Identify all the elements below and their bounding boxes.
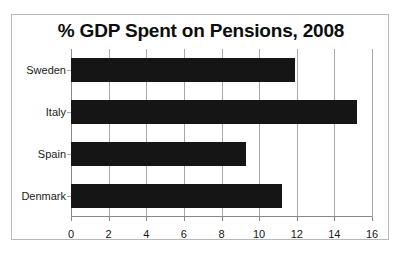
bar-row: Spain: [71, 142, 372, 166]
x-axis-tick: [71, 217, 72, 221]
y-axis-tick: [67, 112, 71, 113]
x-axis-tick: [259, 217, 260, 221]
bar-row: Sweden: [71, 58, 372, 82]
bar: [71, 184, 282, 208]
x-axis-tick: [109, 217, 110, 221]
x-axis-tick-label: 8: [209, 228, 235, 240]
bar: [71, 142, 246, 166]
x-axis-tick: [184, 217, 185, 221]
bar: [71, 100, 357, 124]
bar-row: Italy: [71, 100, 372, 124]
x-axis-tick-label: 14: [321, 228, 347, 240]
plot-area: SwedenItalySpainDenmark 0246810121416: [71, 49, 372, 217]
x-axis-tick-label: 12: [284, 228, 310, 240]
x-axis-tick: [146, 217, 147, 221]
category-label: Sweden: [26, 64, 66, 76]
gridline: [372, 49, 373, 217]
y-axis-tick: [67, 70, 71, 71]
bar: [71, 58, 295, 82]
category-label: Spain: [38, 148, 66, 160]
chart-frame: % GDP Spent on Pensions, 2008 SwedenItal…: [11, 14, 389, 240]
x-axis-tick-label: 0: [58, 228, 84, 240]
x-axis-tick-label: 4: [133, 228, 159, 240]
chart-title: % GDP Spent on Pensions, 2008: [12, 20, 390, 42]
x-axis-tick: [372, 217, 373, 221]
x-axis-tick: [297, 217, 298, 221]
category-label: Denmark: [21, 190, 66, 202]
y-axis-tick: [67, 154, 71, 155]
x-axis-tick-label: 6: [171, 228, 197, 240]
bar-row: Denmark: [71, 184, 372, 208]
x-axis-tick-label: 16: [359, 228, 385, 240]
category-label: Italy: [46, 106, 66, 118]
x-axis-tick: [334, 217, 335, 221]
y-axis-tick: [67, 196, 71, 197]
x-axis-tick-label: 10: [246, 228, 272, 240]
x-axis-tick: [222, 217, 223, 221]
x-axis-tick-label: 2: [96, 228, 122, 240]
